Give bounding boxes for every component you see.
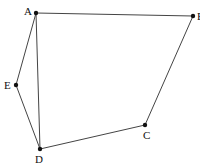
point-A (34, 11, 38, 15)
point-label-B: B (197, 10, 200, 22)
point-E (14, 83, 18, 87)
point-label-A: A (24, 5, 32, 17)
point-label-D: D (35, 153, 43, 165)
point-label-C: C (143, 129, 150, 141)
segment-BC (145, 16, 193, 125)
segment-CD (40, 125, 145, 149)
segment-EA (16, 13, 36, 85)
segment-AD (36, 13, 40, 149)
point-C (143, 123, 147, 127)
point-B (191, 14, 195, 18)
polygon-diagram: ABCDE (0, 0, 200, 167)
segment-DE (16, 85, 40, 149)
point-D (38, 147, 42, 151)
geometry-figure: ABCDE (0, 0, 200, 167)
segment-AB (36, 13, 193, 16)
point-label-E: E (4, 79, 11, 91)
